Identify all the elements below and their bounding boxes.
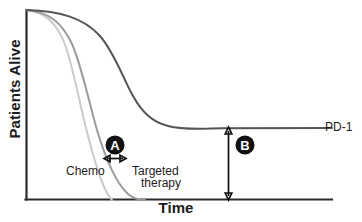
badge-a: A (106, 136, 125, 155)
badge-b: B (236, 136, 255, 155)
series-label-chemo: Chemo (66, 165, 105, 177)
badge-a-letter: A (110, 138, 120, 153)
badge-b-letter: B (240, 138, 249, 153)
targeted-label-line2: therapy (132, 177, 181, 189)
x-axis-title: Time (140, 199, 212, 216)
survival-curve-figure: A B Patients Alive Time Chemo Targetedth… (0, 0, 362, 222)
series-label-targeted-therapy: Targetedtherapy (132, 165, 181, 189)
y-axis-title: Patients Alive (6, 0, 24, 184)
series-label-pd1: PD-1 (325, 121, 352, 133)
